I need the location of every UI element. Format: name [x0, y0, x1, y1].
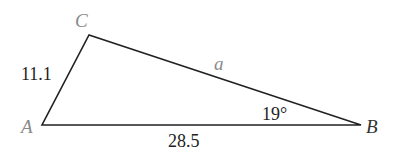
side-label-bc: a — [214, 53, 224, 74]
angle-label-b: 19° — [262, 104, 287, 124]
side-label-ac: 11.1 — [21, 64, 52, 84]
vertex-label-a: A — [19, 116, 33, 137]
triangle-shape — [42, 35, 361, 125]
vertex-label-c: C — [75, 10, 88, 31]
side-label-ab: 28.5 — [168, 131, 200, 151]
vertex-label-b: B — [366, 116, 378, 137]
triangle-diagram: C A B 11.1 28.5 a 19° — [0, 0, 397, 160]
